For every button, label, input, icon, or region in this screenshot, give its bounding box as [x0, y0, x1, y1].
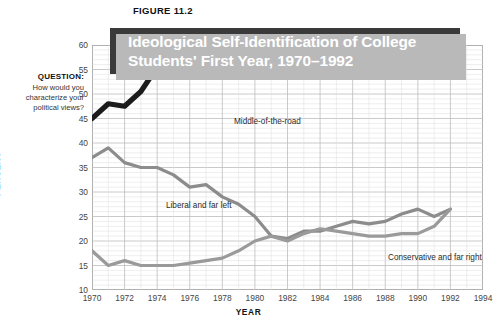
x-axis-tick-labels: 1970197219741976197819801982198419861988… [92, 293, 483, 307]
x-tick-1978: 1978 [213, 293, 232, 303]
x-tick-1980: 1980 [246, 293, 265, 303]
x-tick-1994: 1994 [474, 293, 493, 303]
x-tick-1976: 1976 [180, 293, 199, 303]
y-tick-20: 20 [66, 236, 88, 246]
y-tick-30: 30 [66, 187, 88, 197]
x-tick-1986: 1986 [343, 293, 362, 303]
x-axis-title: YEAR [0, 307, 497, 317]
y-tick-60: 60 [66, 40, 88, 50]
series-label-liberal: Liberal and far left [166, 201, 232, 210]
x-tick-1972: 1972 [115, 293, 134, 303]
chart-title: Ideological Self-Identification of Colle… [128, 33, 460, 70]
y-axis-tick-labels: 1015202530354045505560 [62, 45, 88, 290]
series-label-middle-of-the-road: Middle-of-the-road [234, 117, 301, 126]
series-label-conservative: Conservative and far right [388, 253, 482, 262]
x-tick-1982: 1982 [278, 293, 297, 303]
y-tick-15: 15 [66, 261, 88, 271]
x-tick-1992: 1992 [441, 293, 460, 303]
y-tick-55: 55 [66, 65, 88, 75]
chart-title-banner: Ideological Self-Identification of Colle… [110, 28, 460, 74]
x-tick-1984: 1984 [311, 293, 330, 303]
y-tick-45: 45 [66, 114, 88, 124]
y-tick-40: 40 [66, 138, 88, 148]
figure-label: FIGURE 11.2 [133, 5, 193, 16]
y-tick-50: 50 [66, 89, 88, 99]
x-tick-1988: 1988 [376, 293, 395, 303]
x-tick-1990: 1990 [409, 293, 428, 303]
x-tick-1974: 1974 [148, 293, 167, 303]
x-tick-1970: 1970 [83, 293, 102, 303]
y-tick-25: 25 [66, 212, 88, 222]
y-tick-35: 35 [66, 163, 88, 173]
y-axis-title: PERCENT [0, 152, 2, 196]
